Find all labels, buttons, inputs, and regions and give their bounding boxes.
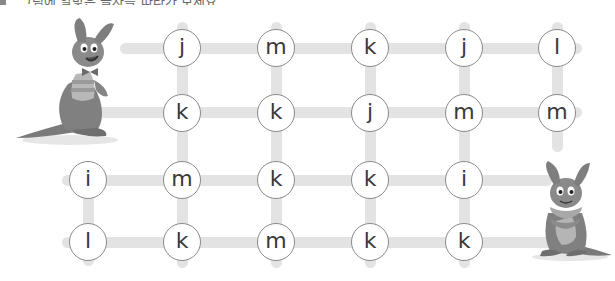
letter-circle-r3c2[interactable]: m xyxy=(163,161,201,199)
letter-circle-r3c1[interactable]: i xyxy=(69,161,107,199)
letter-circle-r2c5[interactable]: m xyxy=(538,94,576,132)
letter-circle-r4c1[interactable]: l xyxy=(69,223,107,261)
letter-circle-r1c5[interactable]: l xyxy=(538,29,576,67)
kangaroo-left-illustration xyxy=(10,12,135,147)
letter-circle-r2c1[interactable]: k xyxy=(163,94,201,132)
letter-circle-r1c4[interactable]: j xyxy=(445,29,483,67)
bullet-icon xyxy=(0,0,6,5)
letter-circle-r4c3[interactable]: m xyxy=(257,223,295,261)
letter-circle-r1c2[interactable]: m xyxy=(257,29,295,67)
letter-circle-r2c3[interactable]: j xyxy=(351,94,389,132)
instruction-header: 그림에 알맞은 글자를 따라가 보세요 xyxy=(0,0,300,5)
letter-circle-r4c4[interactable]: k xyxy=(351,223,389,261)
letter-circle-r1c3[interactable]: k xyxy=(351,29,389,67)
letter-circle-r3c4[interactable]: k xyxy=(351,161,389,199)
instruction-text: 그림에 알맞은 글자를 따라가 보세요 xyxy=(20,0,217,5)
letter-circle-r1c1[interactable]: j xyxy=(163,29,201,67)
letter-circle-r2c4[interactable]: m xyxy=(445,94,483,132)
letter-circle-r2c2[interactable]: k xyxy=(257,94,295,132)
letter-circle-r3c5[interactable]: i xyxy=(445,161,483,199)
letter-circle-r4c2[interactable]: k xyxy=(163,223,201,261)
kangaroo-right-illustration xyxy=(528,157,615,261)
letter-circle-r3c3[interactable]: k xyxy=(257,161,295,199)
letter-circle-r4c5[interactable]: k xyxy=(445,223,483,261)
